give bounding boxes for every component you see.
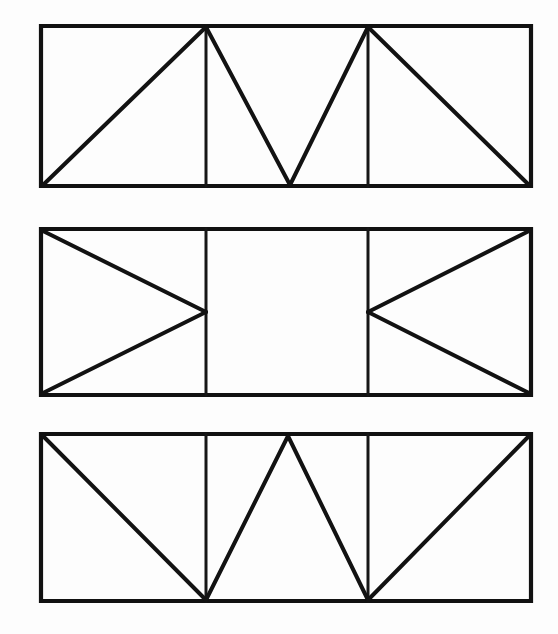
figure-1-diagonal-3 (290, 27, 368, 185)
figure-3-diagonal-4 (368, 436, 529, 600)
figure-1-diagonal-2 (206, 27, 290, 185)
figure-2-group (41, 229, 531, 395)
figure-1-group (41, 26, 531, 186)
figure-sheet (0, 0, 558, 634)
figure-2-frame (41, 229, 531, 395)
figure-3-diagonal-1 (43, 436, 206, 600)
figure-1-diagonal-1 (43, 27, 206, 185)
figure-2-diagonal-1 (43, 231, 206, 312)
figure-2-diagonal-4 (368, 312, 529, 393)
figure-canvas (0, 0, 558, 634)
figure-3-diagonal-2 (206, 436, 288, 600)
figure-3-group (41, 434, 531, 601)
figure-3-diagonal-3 (288, 436, 368, 600)
figure-3-frame (41, 434, 531, 601)
figure-1-diagonal-4 (368, 27, 529, 185)
figure-2-diagonal-2 (43, 312, 206, 393)
figure-1-frame (41, 26, 531, 186)
figure-2-diagonal-3 (368, 231, 529, 312)
